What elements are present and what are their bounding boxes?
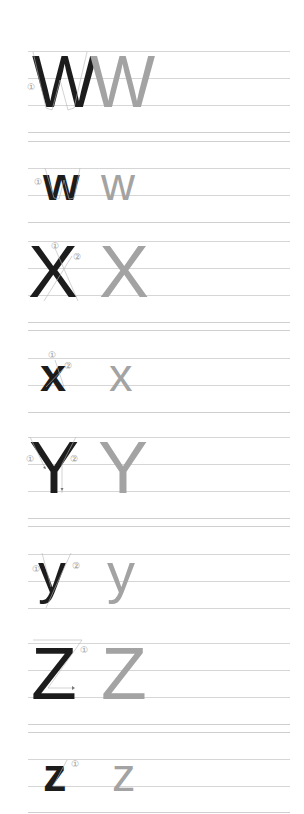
stroke-number-1: ① <box>27 83 35 92</box>
guideline-bottom <box>28 724 290 725</box>
trace-letter: Y <box>98 430 148 505</box>
guideline-top <box>28 526 290 527</box>
stroke-number-2: ② <box>64 362 72 371</box>
guideline-mid <box>28 358 290 359</box>
model-letter: w <box>43 160 80 207</box>
stroke-number-2: ② <box>70 455 78 464</box>
guideline-top <box>28 141 290 142</box>
guideline-bottom <box>28 132 290 133</box>
trace-letter: Z <box>101 636 147 711</box>
stroke-number-1: ① <box>80 646 88 655</box>
model-letter: z <box>43 751 67 798</box>
guideline-top <box>28 330 290 331</box>
stroke-number-2: ② <box>73 253 81 262</box>
model-letter: Y <box>29 430 79 505</box>
guideline-mid <box>28 759 290 760</box>
guideline-mid <box>28 554 290 555</box>
stroke-number-1: ① <box>34 178 42 187</box>
stroke-number-1: ① <box>48 351 56 360</box>
guideline-bottom <box>28 322 290 323</box>
stroke-number-1: ① <box>51 242 59 251</box>
trace-letter: W <box>90 44 155 119</box>
guideline-bottom <box>28 518 290 519</box>
stroke-number-1: ① <box>26 455 34 464</box>
trace-letter: y <box>107 545 135 601</box>
guideline-bottom <box>28 608 290 609</box>
stroke-number-1: ① <box>32 565 40 574</box>
trace-letter: z <box>112 751 136 798</box>
guideline-baseline <box>28 786 290 787</box>
stroke-number-1: ① <box>71 760 79 769</box>
guideline-bottom <box>28 812 290 813</box>
tracing-worksheet: W W ① w w ① X X ① ② x x ① ② <box>0 0 304 814</box>
trace-letter: x <box>109 351 133 398</box>
stroke-number-2: ② <box>72 562 80 571</box>
guideline-baseline <box>28 385 290 386</box>
model-letter: Z <box>31 636 77 711</box>
guideline-bottom <box>28 222 290 223</box>
trace-letter: w <box>101 160 135 207</box>
guideline-top <box>28 732 290 733</box>
model-letter: W <box>32 44 97 119</box>
model-letter: y <box>38 545 66 601</box>
guideline-baseline <box>28 581 290 582</box>
guideline-bottom <box>28 412 290 413</box>
trace-letter: X <box>99 234 149 309</box>
